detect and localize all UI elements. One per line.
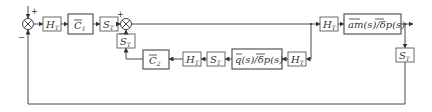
- c1-sub: 1: [82, 25, 86, 32]
- block-st-out: ST: [396, 48, 414, 62]
- block-ht-up: HT: [320, 17, 338, 31]
- am-delta-label: am(s)/δp(s): [348, 19, 405, 30]
- summing-junction-1: [23, 19, 34, 30]
- outer-feedback-path: [28, 30, 405, 104]
- block-c2: C2: [143, 50, 169, 69]
- sum1-plus-sign: +: [31, 7, 38, 16]
- wire-branch-htlow2: [306, 24, 311, 59]
- htlow2-main: H: [290, 54, 300, 65]
- block-diagram: + − HT C1 ST + − HT am(s)/: [0, 0, 432, 112]
- htlow1-main: H: [185, 54, 195, 65]
- block-ht-low1: HT: [183, 52, 201, 66]
- wire-c2-stfb: [126, 48, 143, 59]
- c2-sub: 2: [156, 60, 161, 67]
- block-ht1: HT: [43, 17, 61, 31]
- block-am-delta: am(s)/δp(s): [344, 14, 405, 34]
- summing-junction-2: [121, 19, 132, 30]
- ht1-main: H: [45, 19, 55, 30]
- htup-main: H: [322, 19, 332, 30]
- block-st-low: ST: [207, 52, 225, 66]
- block-c1: C1: [68, 14, 93, 34]
- block-ht-low2: HT: [288, 52, 306, 66]
- block-st-fb: ST: [117, 34, 135, 48]
- q-delta-label: q(s)/δp(s): [235, 54, 283, 65]
- sum1-minus-sign: −: [18, 33, 25, 42]
- block-q-delta: q(s)/δp(s): [232, 49, 283, 69]
- sum2-plus-sign: +: [117, 10, 124, 19]
- block-st1: ST: [100, 17, 118, 31]
